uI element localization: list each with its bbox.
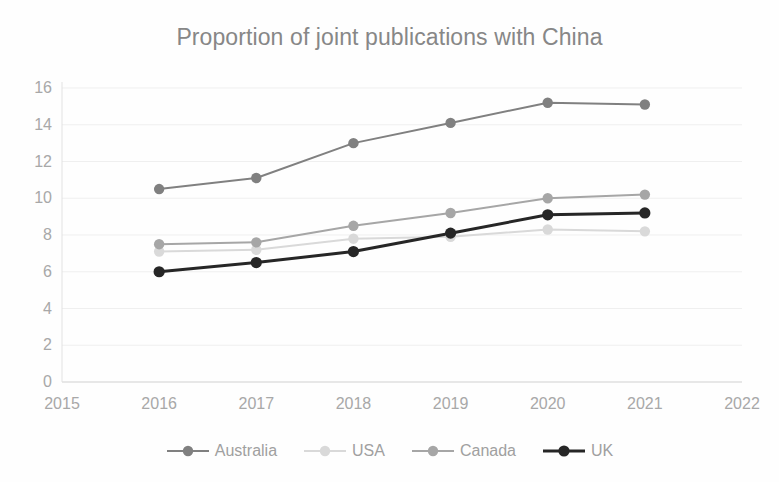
legend-swatch-icon <box>166 443 210 459</box>
y-tick-label: 8 <box>18 227 52 243</box>
x-tick-label: 2019 <box>421 396 481 412</box>
data-point-canada-2016 <box>154 239 164 249</box>
y-tick-label: 0 <box>18 374 52 390</box>
chart-container: Proportion of joint publications with Ch… <box>0 0 779 482</box>
legend-swatch-icon <box>542 443 586 459</box>
legend-swatch-icon <box>411 443 455 459</box>
data-point-uk-2021 <box>639 207 650 218</box>
x-tick-label: 2021 <box>615 396 675 412</box>
data-point-uk-2016 <box>154 266 165 277</box>
data-point-australia-2018 <box>348 138 358 148</box>
data-point-canada-2018 <box>348 221 358 231</box>
data-point-australia-2020 <box>543 98 553 108</box>
data-point-australia-2021 <box>640 99 650 109</box>
x-tick-label: 2017 <box>226 396 286 412</box>
y-tick-label: 16 <box>18 80 52 96</box>
legend-label: UK <box>591 443 613 459</box>
data-point-uk-2018 <box>348 246 359 257</box>
series-line-usa <box>159 229 645 251</box>
data-point-australia-2016 <box>154 184 164 194</box>
legend-item-canada[interactable]: Canada <box>411 443 516 459</box>
chart-legend: AustraliaUSACanadaUK <box>0 443 779 459</box>
data-point-usa-2020 <box>543 224 553 234</box>
data-point-canada-2020 <box>543 193 553 203</box>
legend-item-australia[interactable]: Australia <box>166 443 277 459</box>
y-tick-label: 14 <box>18 117 52 133</box>
data-point-canada-2021 <box>640 189 650 199</box>
data-point-usa-2018 <box>348 233 358 243</box>
y-tick-label: 2 <box>18 337 52 353</box>
data-point-australia-2017 <box>251 173 261 183</box>
data-point-australia-2019 <box>445 118 455 128</box>
series-line-canada <box>159 195 645 245</box>
data-point-uk-2017 <box>251 257 262 268</box>
y-tick-label: 6 <box>18 264 52 280</box>
y-tick-label: 12 <box>18 154 52 170</box>
legend-label: Australia <box>215 443 277 459</box>
x-tick-label: 2016 <box>129 396 189 412</box>
x-tick-label: 2018 <box>323 396 383 412</box>
legend-label: USA <box>352 443 385 459</box>
y-tick-label: 10 <box>18 190 52 206</box>
legend-item-usa[interactable]: USA <box>303 443 385 459</box>
x-tick-label: 2020 <box>518 396 578 412</box>
legend-label: Canada <box>460 443 516 459</box>
data-point-canada-2017 <box>251 237 261 247</box>
series-lines <box>159 103 645 272</box>
data-point-uk-2019 <box>445 228 456 239</box>
data-point-usa-2021 <box>640 226 650 236</box>
legend-swatch-icon <box>303 443 347 459</box>
legend-item-uk[interactable]: UK <box>542 443 613 459</box>
series-line-australia <box>159 103 645 189</box>
y-tick-label: 4 <box>18 301 52 317</box>
data-point-canada-2019 <box>445 208 455 218</box>
x-tick-label: 2022 <box>712 396 772 412</box>
x-tick-label: 2015 <box>32 396 92 412</box>
data-point-uk-2020 <box>542 209 553 220</box>
